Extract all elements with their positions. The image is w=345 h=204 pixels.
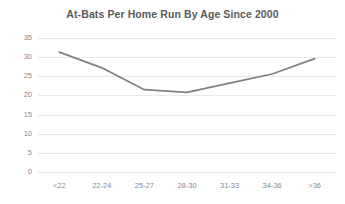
y-axis-tick-label: 20 (8, 92, 32, 100)
series-line-chart (38, 38, 336, 172)
y-axis-tick-label: 0 (8, 168, 32, 176)
gridline-0 (38, 172, 336, 173)
chart-title: At-Bats Per Home Run By Age Since 2000 (0, 8, 345, 20)
x-axis-tick-label: >36 (308, 182, 321, 190)
x-axis-tick-label: <22 (53, 182, 66, 190)
x-axis-tick-label: 25-27 (135, 182, 154, 190)
y-axis-tick-label: 35 (8, 34, 32, 42)
x-axis-tick-label: 31-33 (220, 182, 239, 190)
y-axis-tick-label: 10 (8, 130, 32, 138)
series-line-at-bats-per-home-run (59, 52, 314, 92)
y-axis-tick-label: 30 (8, 53, 32, 61)
x-axis-tick-label: 34-36 (263, 182, 282, 190)
chart-container: At-Bats Per Home Run By Age Since 2000 3… (0, 0, 345, 204)
x-axis-tick-label: 22-24 (92, 182, 111, 190)
plot-area (38, 38, 336, 172)
y-axis-tick-label: 25 (8, 73, 32, 81)
y-axis-tick-label: 15 (8, 111, 32, 119)
x-axis-tick-label: 28-30 (177, 182, 196, 190)
y-axis-tick-label: 5 (8, 149, 32, 157)
